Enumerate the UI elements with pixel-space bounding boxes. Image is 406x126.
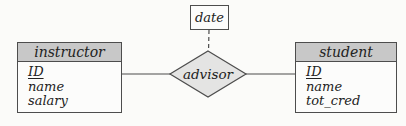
entity-instructor-title: instructor — [18, 43, 121, 62]
entity-instructor-attributes: ID name salary — [18, 62, 121, 109]
attribute-name: name — [306, 80, 396, 95]
relationship-attribute-box: date — [190, 5, 229, 30]
attribute-name: name — [28, 80, 121, 95]
attribute-id: ID — [306, 65, 396, 80]
entity-student-title: student — [296, 43, 396, 62]
entity-instructor: instructor ID name salary — [17, 42, 122, 113]
attribute-id: ID — [28, 65, 121, 80]
er-diagram-canvas: date advisor instructor ID name salary s… — [0, 0, 406, 126]
entity-student-attributes: ID name tot_cred — [296, 62, 396, 109]
attribute-tot-cred: tot_cred — [306, 94, 396, 109]
link-date-advisor-dashed — [209, 30, 210, 52]
entity-student: student ID name tot_cred — [295, 42, 397, 113]
relationship-name: advisor — [170, 66, 246, 82]
relationship-attribute-label: date — [195, 10, 224, 25]
attribute-salary: salary — [28, 94, 121, 109]
